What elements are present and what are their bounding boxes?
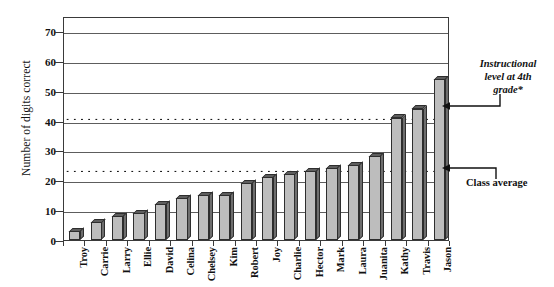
- x-axis-tick-label: Hector: [314, 247, 325, 277]
- x-axis-tick-mark: [106, 241, 107, 246]
- bar-side-face: [166, 201, 170, 240]
- y-axis-tick-mark: [55, 92, 63, 93]
- x-axis-tick-mark: [213, 241, 214, 246]
- x-axis-tick-label: Kathy: [399, 247, 410, 275]
- x-axis-tick-mark: [149, 241, 150, 246]
- x-axis-tick-label: Kim: [228, 247, 239, 267]
- y-axis-tick-label: 40: [16, 116, 56, 128]
- gridline: [64, 93, 448, 94]
- x-axis-tick-mark: [299, 241, 300, 246]
- y-axis-tick-mark: [55, 122, 63, 123]
- bar[interactable]: [369, 156, 380, 240]
- bar-side-face: [144, 210, 148, 240]
- y-axis-tick-mark: [55, 151, 63, 152]
- x-axis-tick-mark: [385, 241, 386, 246]
- y-axis-tick-label: 30: [16, 145, 56, 157]
- y-axis-tick-label: 50: [16, 86, 56, 98]
- bar[interactable]: [241, 183, 252, 240]
- instructional-annotation-line-1: Instructional: [466, 57, 550, 70]
- bar-front-face: [219, 195, 230, 240]
- x-axis-tick-mark: [320, 241, 321, 246]
- instructional-annotation-line-3: grade*: [466, 83, 550, 96]
- x-axis-tick-label: Celina: [185, 247, 196, 276]
- bar-front-face: [69, 231, 80, 240]
- bar[interactable]: [348, 165, 359, 240]
- bar-front-face: [262, 177, 273, 240]
- y-axis-tick-label: 70: [16, 26, 56, 38]
- x-axis-tick-label: Joy: [271, 247, 282, 262]
- bar-side-face: [123, 213, 127, 240]
- x-axis-tick-mark: [127, 241, 128, 246]
- x-axis-tick-label: Mark: [335, 247, 346, 272]
- bar-front-face: [369, 156, 380, 240]
- bar-chart-figure: Number of digits correct 010203040506070…: [0, 0, 554, 287]
- bar-side-face: [359, 162, 363, 240]
- class-average-annotation-line-1: Class average: [466, 176, 552, 189]
- bar-side-face: [230, 192, 234, 240]
- bar-front-face: [391, 118, 402, 240]
- x-axis-tick-mark: [449, 241, 450, 246]
- x-axis-tick-mark: [63, 241, 64, 246]
- bar-side-face: [337, 165, 341, 240]
- bar-side-face: [380, 153, 384, 240]
- x-axis-tick-label: Robert: [249, 247, 260, 278]
- x-axis-tick-mark: [256, 241, 257, 246]
- gridline: [64, 33, 448, 34]
- x-axis-tick-mark: [428, 241, 429, 246]
- plot-area: [63, 17, 449, 241]
- bar-front-face: [241, 183, 252, 240]
- x-axis-tick-label: Laura: [357, 247, 368, 275]
- bar[interactable]: [284, 174, 295, 240]
- bar[interactable]: [112, 216, 123, 240]
- x-axis-tick-mark: [406, 241, 407, 246]
- bar-side-face: [252, 180, 256, 240]
- instructional-level-leader: [441, 93, 501, 115]
- y-axis-tick-label: 60: [16, 56, 56, 68]
- x-axis-tick-label: David: [164, 247, 175, 273]
- x-axis-tick-mark: [235, 241, 236, 246]
- bar-front-face: [412, 109, 423, 240]
- x-axis-tick-mark: [84, 241, 85, 246]
- bar[interactable]: [391, 118, 402, 240]
- bar[interactable]: [69, 231, 80, 240]
- bar[interactable]: [412, 109, 423, 240]
- bar-front-face: [176, 198, 187, 240]
- bar[interactable]: [198, 195, 209, 240]
- bar[interactable]: [176, 198, 187, 240]
- bar-front-face: [91, 222, 102, 240]
- bar-side-face: [294, 171, 298, 240]
- bar[interactable]: [219, 195, 230, 240]
- x-axis-tick-label: Juanita: [378, 247, 389, 280]
- bar-side-face: [273, 174, 277, 240]
- y-axis-tick-mark: [55, 211, 63, 212]
- bar-front-face: [155, 204, 166, 240]
- x-axis-tick-label: Troy: [78, 247, 89, 268]
- x-axis-tick-label: Chelsey: [206, 247, 217, 281]
- bar-front-face: [284, 174, 295, 240]
- x-axis-tick-mark: [277, 241, 278, 246]
- bar-side-face: [209, 192, 213, 240]
- bar[interactable]: [262, 177, 273, 240]
- plot-inner: [64, 18, 448, 240]
- x-axis-tick-mark: [342, 241, 343, 246]
- bar[interactable]: [305, 171, 316, 240]
- bar[interactable]: [91, 222, 102, 240]
- bar[interactable]: [155, 204, 166, 240]
- y-axis-tick-label: 0: [16, 235, 56, 247]
- bar-side-face: [187, 195, 191, 240]
- bar-front-face: [326, 168, 337, 240]
- bar-side-face: [402, 114, 406, 240]
- x-axis-tick-mark: [170, 241, 171, 246]
- class-average-annotation: Class average: [466, 176, 552, 189]
- y-axis-tick-mark: [55, 32, 63, 33]
- y-axis-tick-label: 20: [16, 175, 56, 187]
- y-axis-tick-mark: [55, 241, 63, 242]
- x-axis-tick-label: Ellie: [142, 247, 153, 267]
- gridline: [64, 63, 448, 64]
- bar[interactable]: [133, 213, 144, 240]
- bar-side-face: [423, 105, 427, 240]
- y-axis-tick-label: 10: [16, 205, 56, 217]
- bar[interactable]: [326, 168, 337, 240]
- x-axis-tick-label: Carrie: [99, 247, 110, 276]
- bar-front-face: [112, 216, 123, 240]
